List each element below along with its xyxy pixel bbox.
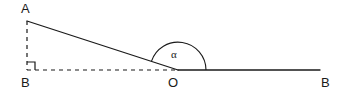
vertex-label-o: O (168, 76, 178, 89)
geometry-figure: A B O B α (0, 0, 351, 99)
angle-label-alpha: α (171, 49, 177, 60)
right-angle-marker (27, 62, 35, 70)
angle-arc-alpha (151, 42, 206, 70)
vertex-label-b-left: B (21, 76, 30, 89)
hypotenuse-ao-line (27, 21, 178, 70)
vertex-label-b-right: B (321, 76, 330, 89)
vertex-label-a: A (21, 2, 30, 15)
